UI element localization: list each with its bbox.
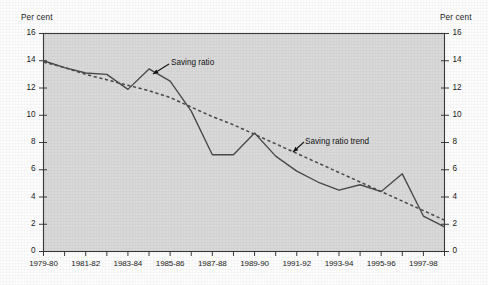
y-tick-label: 8 xyxy=(453,137,470,146)
y-tick-label: 10 xyxy=(19,110,36,119)
x-tick-label: 1997-98 xyxy=(400,259,446,268)
saving-ratio-trend-annotation-label: Saving ratio trend xyxy=(305,137,369,146)
y-tick-label: 2 xyxy=(453,219,470,228)
y-tick-label: 6 xyxy=(453,164,470,173)
x-tick-label: 1993-94 xyxy=(316,259,362,268)
x-tick-label: 1995-96 xyxy=(358,259,404,268)
y-tick-label: 12 xyxy=(453,83,470,92)
y-tick-label: 10 xyxy=(453,110,470,119)
y-tick-label: 6 xyxy=(19,164,36,173)
x-tick-label: 1991-92 xyxy=(274,259,320,268)
plot-canvas xyxy=(0,0,488,285)
x-tick-label: 1989-90 xyxy=(232,259,278,268)
x-tick-label: 1987-88 xyxy=(189,259,235,268)
y-tick-label: 14 xyxy=(453,55,470,64)
y-tick-label: 14 xyxy=(19,55,36,64)
x-tick-label: 1979-80 xyxy=(21,259,67,268)
savings-ratio-chart-figure: Per cent Per cent Saving ratio Saving ra… xyxy=(0,0,488,285)
bottom-axis-ticks xyxy=(44,252,445,257)
y-tick-label: 0 xyxy=(19,246,36,255)
y-tick-label: 16 xyxy=(453,28,470,37)
x-tick-label: 1983-84 xyxy=(105,259,151,268)
y-tick-label: 16 xyxy=(19,28,36,37)
y-tick-label: 4 xyxy=(453,192,470,201)
y-tick-label: 2 xyxy=(19,219,36,228)
plot-area-background xyxy=(44,34,445,252)
x-tick-label: 1985-86 xyxy=(147,259,193,268)
y-tick-label: 12 xyxy=(19,83,36,92)
y-tick-label: 8 xyxy=(19,137,36,146)
y-tick-label: 4 xyxy=(19,192,36,201)
y-tick-label: 0 xyxy=(453,246,470,255)
x-tick-label: 1981-82 xyxy=(63,259,109,268)
saving-ratio-annotation-label: Saving ratio xyxy=(171,58,214,67)
